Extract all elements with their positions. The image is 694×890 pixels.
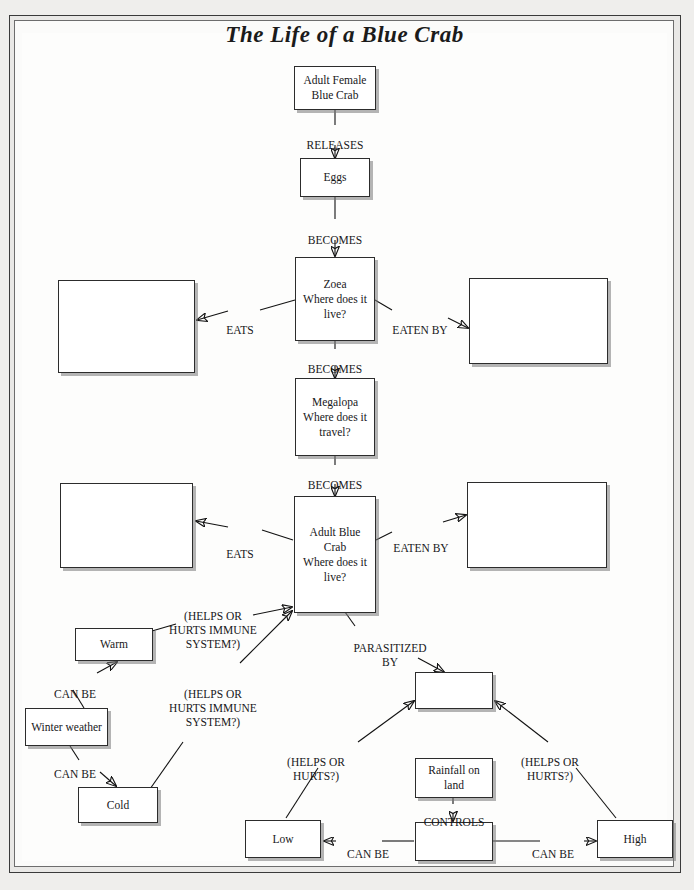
node-label: Cold: [107, 798, 129, 813]
edge-label-text: (HELPS OR HURTS?): [521, 756, 579, 782]
node-eggs[interactable]: Eggs: [300, 158, 370, 197]
edge-label-text: (HELPS OR HURTS IMMUNE SYSTEM?): [169, 610, 257, 650]
edge-label-becomes-eggs: BECOMES: [285, 219, 385, 247]
edge-label-immune-cold: (HELPS OR HURTS IMMUNE SYSTEM?): [158, 673, 268, 729]
edge-label-releases: RELEASES: [285, 124, 385, 152]
edge-label-text: PARASITIZED BY: [353, 642, 426, 668]
scanned-page: The Life of a Blue Crab: [0, 0, 694, 890]
edge-label-text: CAN BE: [532, 848, 574, 860]
node-label: Adult Blue Crab Where does it live?: [303, 525, 367, 585]
node-adult-female-blue-crab[interactable]: Adult Female Blue Crab: [294, 66, 376, 110]
edge-label-adult-eaten-by: EATEN BY: [381, 527, 461, 555]
edge-label-helps-hurts-high: (HELPS OR HURTS?): [498, 741, 602, 783]
edge-label-zoea-eaten-by: EATEN BY: [380, 309, 460, 337]
edge-label-text: EATS: [226, 324, 253, 336]
node-label: Megalopa Where does it travel?: [303, 395, 367, 440]
edge-label-text: CAN BE: [54, 768, 96, 780]
edge-label-can-be-low: CAN BE: [337, 833, 399, 861]
edge-label-text: (HELPS OR HURTS?): [287, 756, 345, 782]
edge-label-can-be-high: CAN BE: [522, 833, 584, 861]
node-zoea-predator-blank[interactable]: [469, 278, 608, 364]
edge-label-becomes-zoea: BECOMES: [285, 348, 385, 376]
edge-label-can-be-cold: CAN BE: [40, 753, 110, 781]
edge-label-text: EATS: [226, 548, 253, 560]
node-label: Winter weather: [31, 720, 102, 735]
edge-label-text: (HELPS OR HURTS IMMUNE SYSTEM?): [169, 688, 257, 728]
edge-label-controls: CONTROLS: [404, 801, 504, 829]
node-high[interactable]: High: [597, 820, 673, 858]
edge-label-becomes-megalopa: BECOMES: [285, 464, 385, 492]
node-label: Zoea Where does it live?: [303, 277, 367, 322]
node-label: Eggs: [324, 170, 347, 185]
edge-label-text: BECOMES: [308, 234, 362, 246]
edge-label-text: EATEN BY: [393, 542, 448, 554]
node-cold[interactable]: Cold: [78, 787, 158, 823]
node-low[interactable]: Low: [245, 820, 321, 858]
node-label: Low: [272, 832, 293, 847]
node-winter-weather[interactable]: Winter weather: [25, 708, 108, 746]
edge-label-parasitized-by: PARASITIZED BY: [340, 627, 440, 669]
edge-label-immune-warm: (HELPS OR HURTS IMMUNE SYSTEM?): [158, 595, 268, 651]
edge-label-text: BECOMES: [308, 479, 362, 491]
node-zoea[interactable]: Zoea Where does it live?: [295, 257, 375, 341]
edge-label-adult-eats: EATS: [205, 533, 275, 561]
edge-label-text: EATEN BY: [392, 324, 447, 336]
node-megalopa[interactable]: Megalopa Where does it travel?: [295, 378, 375, 456]
node-warm[interactable]: Warm: [75, 628, 153, 661]
edge-label-text: CONTROLS: [424, 816, 485, 828]
edge-label-text: CAN BE: [54, 688, 96, 700]
node-adult-blue-crab[interactable]: Adult Blue Crab Where does it live?: [294, 496, 376, 613]
edge-label-zoea-eats: EATS: [205, 309, 275, 337]
node-label: Warm: [100, 637, 128, 652]
edge-label-can-be-warm: CAN BE: [40, 673, 110, 701]
edge-label-text: CAN BE: [347, 848, 389, 860]
node-label: High: [624, 832, 647, 847]
page-title: The Life of a Blue Crab: [22, 22, 667, 48]
node-label: Rainfall on land: [428, 763, 479, 793]
node-parasite-blank[interactable]: [415, 672, 493, 709]
node-adult-predator-blank[interactable]: [467, 482, 607, 568]
node-zoea-prey-blank[interactable]: [58, 280, 195, 373]
edge-label-helps-hurts-low: (HELPS OR HURTS?): [264, 741, 368, 783]
node-adult-prey-blank[interactable]: [60, 483, 193, 568]
edge-label-text: BECOMES: [308, 363, 362, 375]
node-label: Adult Female Blue Crab: [304, 73, 367, 103]
edge-label-text: RELEASES: [307, 139, 364, 151]
node-rainfall-on-land[interactable]: Rainfall on land: [415, 758, 493, 798]
